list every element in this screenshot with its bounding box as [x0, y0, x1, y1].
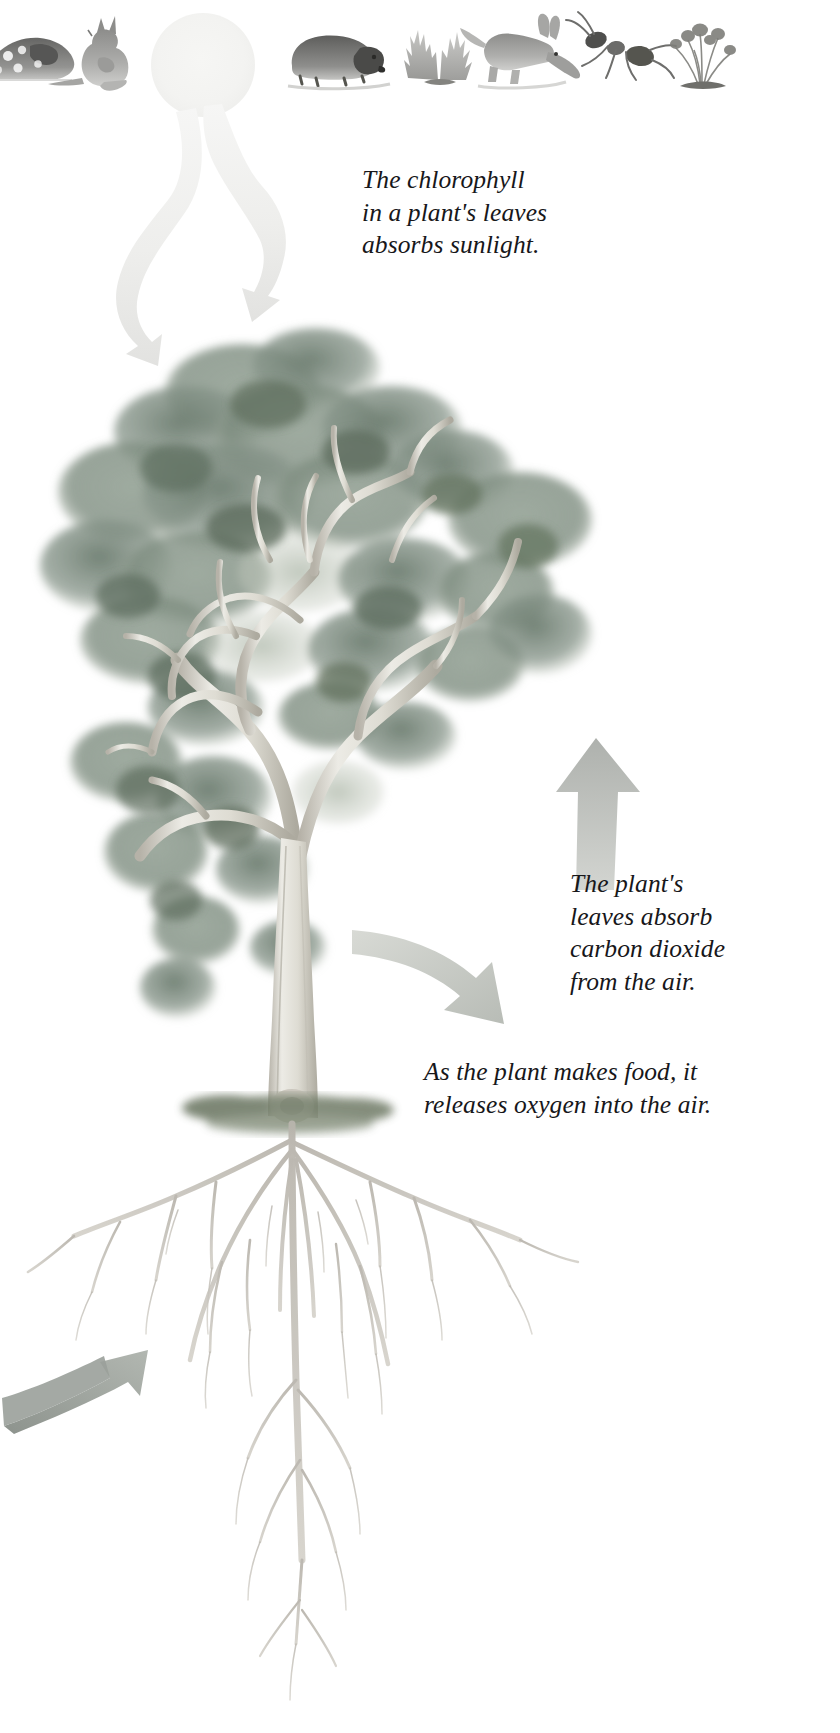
sunlight-ray-left-arrow	[116, 108, 202, 366]
caption-sunlight: The chlorophyll in a plant's leaves abso…	[362, 164, 547, 262]
sunlight-ray-right-arrow	[203, 104, 286, 322]
specimen-quoll	[0, 38, 74, 80]
tree-foliage-detail	[96, 380, 558, 920]
water-uptake-arrow	[2, 1350, 148, 1434]
specimen-flowering-grass	[670, 24, 736, 90]
ground-line	[182, 1095, 394, 1134]
tree-trunk	[268, 838, 318, 1123]
tree-canopy	[40, 328, 592, 1018]
specimen-bilby	[460, 14, 580, 88]
tree-branches	[108, 420, 518, 860]
specimen-saltbush	[404, 30, 472, 85]
specimen-wombat	[288, 36, 390, 89]
tree-roots	[28, 1124, 578, 1700]
carbon-dioxide-arrow	[352, 930, 504, 1024]
specimen-ant	[566, 12, 676, 80]
sun-icon	[151, 13, 255, 117]
caption-carbon-dioxide: The plant's leaves absorb carbon dioxide…	[570, 868, 725, 999]
illustration-page: The chlorophyll in a plant's leaves abso…	[0, 0, 840, 1733]
caption-oxygen: As the plant makes food, it releases oxy…	[424, 1056, 711, 1121]
specimen-wallaby	[48, 16, 128, 91]
